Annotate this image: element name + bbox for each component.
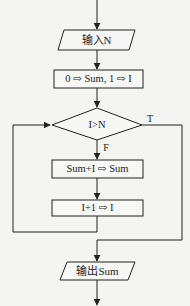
false-branch-label: F [101, 142, 111, 154]
input-node-label: 输入N [58, 34, 135, 46]
true-branch-label: T [145, 113, 155, 125]
cond-node-label: I>N [72, 119, 122, 131]
accum-node-label: Sum+I ⇨ Sum [52, 163, 143, 175]
init-node-label: 0 ⇨ Sum, 1 ⇨ I [54, 73, 143, 85]
output-node-label: 输出Sum [60, 265, 135, 277]
incr-node-label: I+1 ⇨ I [52, 202, 143, 214]
